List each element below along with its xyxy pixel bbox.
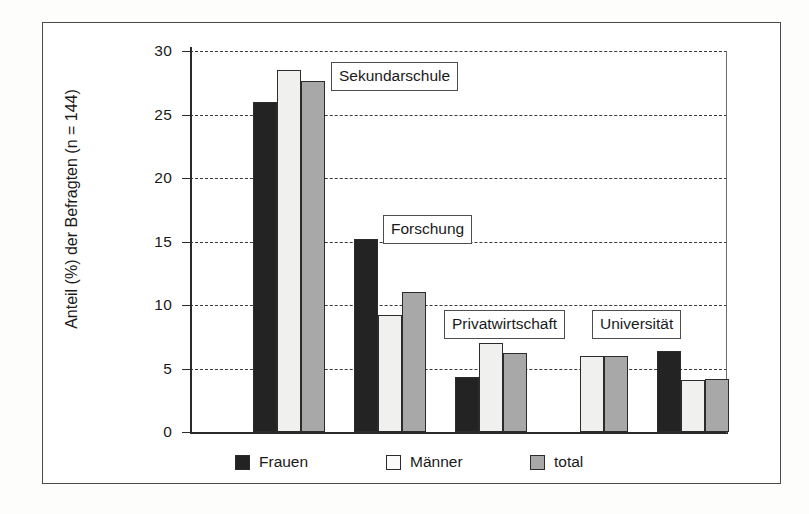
legend-label: Männer bbox=[410, 454, 463, 470]
bar-frauen-3 bbox=[455, 377, 479, 432]
legend-item-maenner: Männer bbox=[386, 451, 463, 473]
y-axis-tick-label: 5 bbox=[132, 361, 172, 377]
chart-legend: FrauenMännertotal bbox=[190, 451, 727, 473]
bar-total-1 bbox=[301, 81, 325, 432]
legend-label: Frauen bbox=[259, 454, 308, 470]
y-axis-tick-label: 0 bbox=[132, 424, 172, 440]
group-label-box: Sekundarschule bbox=[331, 62, 458, 91]
bar-maenner-3 bbox=[479, 343, 503, 432]
legend-swatch-icon bbox=[386, 455, 401, 470]
group-label-box: Forschung bbox=[383, 215, 472, 244]
group-label-box: Universität bbox=[592, 310, 681, 339]
y-axis-tick-label: 10 bbox=[132, 297, 172, 313]
bar-total-2 bbox=[402, 292, 426, 432]
bar-maenner-4 bbox=[580, 356, 604, 432]
group-label-box: Privatwirtschaft bbox=[444, 310, 565, 339]
y-axis-tick-label: 15 bbox=[132, 234, 172, 250]
y-axis-tick-label: 25 bbox=[132, 107, 172, 123]
bar-total-4 bbox=[604, 356, 628, 432]
legend-label: total bbox=[554, 454, 583, 470]
figure-chart-container: Anteil (%) der Befragten (n = 144) 30252… bbox=[0, 0, 809, 514]
y-axis-title: Anteil (%) der Befragten (n = 144) bbox=[63, 49, 81, 369]
legend-swatch-icon bbox=[235, 455, 250, 470]
y-axis-tick-label: 20 bbox=[132, 170, 172, 186]
plot-wrapper: Anteil (%) der Befragten (n = 144) 30252… bbox=[0, 0, 809, 514]
x-axis-line bbox=[190, 432, 728, 434]
bar-maenner-1 bbox=[277, 70, 301, 432]
bar-maenner-2 bbox=[378, 315, 402, 432]
bar-total-5 bbox=[705, 379, 729, 432]
legend-item-total: total bbox=[530, 451, 583, 473]
bar-maenner-5 bbox=[681, 380, 705, 432]
bar-total-3 bbox=[503, 353, 527, 432]
bar-frauen-1 bbox=[253, 102, 277, 432]
legend-item-frauen: Frauen bbox=[235, 451, 308, 473]
bar-frauen-2 bbox=[354, 239, 378, 432]
legend-swatch-icon bbox=[530, 455, 545, 470]
bar-frauen-5 bbox=[657, 351, 681, 432]
y-axis-tick-label: 30 bbox=[132, 43, 172, 59]
